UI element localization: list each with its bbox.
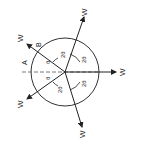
- label-a: A: [21, 60, 28, 65]
- force-arrow-w4: [27, 72, 65, 99]
- angle-label: 2θ: [60, 51, 66, 58]
- point-labels: A B: [21, 42, 42, 65]
- force-arrow-w5: [65, 72, 82, 127]
- label-b: B: [35, 42, 42, 47]
- force-labels: W W W W W: [16, 8, 127, 138]
- force-label-w3: W: [16, 34, 25, 42]
- force-label-w2: W: [80, 8, 89, 16]
- angle-label: 2θ: [81, 56, 87, 63]
- force-label-w1: W: [118, 68, 127, 76]
- angle-label: 2θ: [81, 80, 87, 87]
- force-label-w5: W: [78, 130, 87, 138]
- force-label-w4: W: [16, 100, 25, 108]
- force-diagram: W W W W W A B 2θ 2θ 2θ 2θ θ θ: [0, 0, 141, 146]
- angle-label: 2θ: [57, 86, 63, 93]
- angle-label: θ: [45, 76, 51, 80]
